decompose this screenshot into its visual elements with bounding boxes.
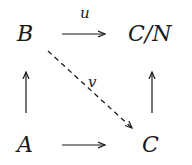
node-a: A [17, 134, 33, 156]
node-c-mod-n: C/N [128, 23, 172, 45]
label-u: u [80, 6, 90, 21]
node-c: C [142, 134, 159, 156]
node-b: B [17, 23, 33, 45]
label-v: v [88, 75, 96, 90]
